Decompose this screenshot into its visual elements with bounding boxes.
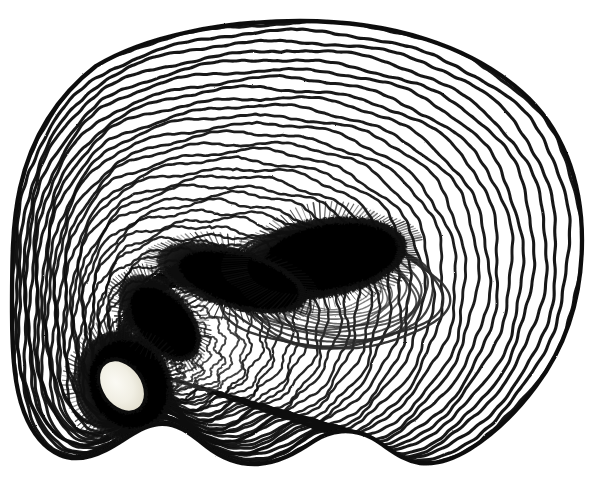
engraving-canvas: Engraved cross-section with concentric r… xyxy=(0,0,606,490)
engraving-figure: Engraved cross-section with concentric r… xyxy=(0,0,606,490)
core-hatch-line xyxy=(324,293,325,310)
core-hatch-line xyxy=(320,202,321,223)
core-hatch-line xyxy=(164,281,179,282)
core-hatch-line xyxy=(225,256,251,257)
core-hatch-line xyxy=(394,259,418,260)
core-hatch-line xyxy=(396,255,418,256)
core-hatch-line xyxy=(167,382,184,383)
core-hatch-line xyxy=(115,316,128,317)
core-hatch-line xyxy=(118,320,130,321)
